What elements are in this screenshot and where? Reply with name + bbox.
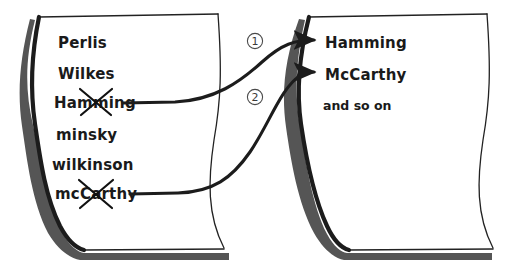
right-page: Hamming McCarthy and so on (284, 14, 493, 260)
left-page-bottom-edge (84, 249, 224, 250)
arrow-1-number-label: 1 (252, 35, 259, 48)
right-item-1-label: McCarthy (325, 66, 407, 84)
arrow-2-number-badge: 2 (247, 89, 262, 104)
notebook-pages-diagram: Perlis Wilkes Hamming minsky wilkinson m… (0, 0, 522, 279)
arrow-2-number-label: 2 (252, 91, 259, 104)
left-page: Perlis Wilkes Hamming minsky wilkinson m… (20, 14, 229, 260)
right-item-2-label: and so on (323, 98, 392, 113)
arrow-1-number-badge: 1 (247, 33, 262, 48)
right-page-bottom-edge (349, 249, 493, 250)
left-item-3-label: minsky (56, 126, 117, 144)
left-item-4-label: wilkinson (52, 156, 134, 174)
left-item-1-label: Wilkes (58, 65, 115, 83)
right-item-0-label: Hamming (325, 34, 407, 52)
left-item-0-label: Perlis (58, 34, 107, 52)
